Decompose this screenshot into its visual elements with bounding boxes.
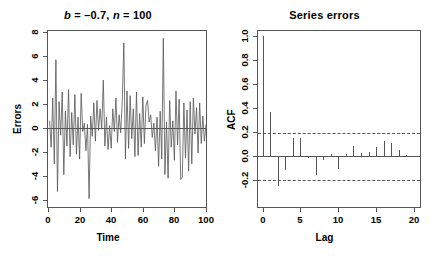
y-tick-label: -6 bbox=[29, 196, 40, 204]
acf-bar bbox=[263, 36, 264, 157]
y-tick-mark bbox=[253, 36, 257, 37]
acf-x-axis-label: Lag bbox=[216, 232, 433, 243]
y-tick-label: -2 bbox=[29, 148, 40, 156]
acf-bar bbox=[331, 154, 332, 156]
timeseries-title-var2: n bbox=[113, 9, 120, 21]
x-tick-label: 5 bbox=[297, 214, 302, 225]
y-tick-label: 0.2 bbox=[239, 125, 250, 138]
acf-bar bbox=[399, 150, 400, 156]
y-tick-mark bbox=[43, 32, 47, 33]
y-tick-mark bbox=[253, 60, 257, 61]
y-tick-mark bbox=[253, 84, 257, 85]
timeseries-y-axis-label: Errors bbox=[12, 104, 23, 134]
x-tick-mark bbox=[111, 208, 112, 212]
acf-bar bbox=[316, 156, 317, 175]
acf-bar bbox=[384, 141, 385, 157]
acf-bar bbox=[414, 156, 415, 157]
timeseries-title-var1: b bbox=[64, 9, 71, 21]
y-tick-label: 2 bbox=[29, 101, 40, 106]
timeseries-title-mid: = –0.7, bbox=[71, 9, 113, 21]
acf-bar bbox=[285, 156, 286, 170]
timeseries-panel: b = –0.7, n = 100 Errors Time 0204060801… bbox=[0, 0, 216, 256]
x-tick-label: 100 bbox=[198, 214, 214, 225]
y-tick-label: 4 bbox=[29, 77, 40, 82]
acf-bar bbox=[278, 156, 279, 186]
acf-bar bbox=[270, 112, 271, 157]
y-tick-mark bbox=[253, 180, 257, 181]
x-tick-mark bbox=[376, 208, 377, 212]
acf-bar bbox=[353, 146, 354, 157]
acf-bar bbox=[346, 154, 347, 156]
acf-lower-confidence-line bbox=[258, 180, 420, 181]
acf-title: Series errors bbox=[216, 9, 433, 21]
y-tick-label: 0.4 bbox=[239, 101, 250, 114]
acf-bar bbox=[308, 156, 309, 158]
y-tick-mark bbox=[253, 132, 257, 133]
x-tick-label: 40 bbox=[106, 214, 117, 225]
y-tick-mark bbox=[43, 200, 47, 201]
y-tick-mark bbox=[43, 104, 47, 105]
x-tick-label: 20 bbox=[75, 214, 86, 225]
timeseries-title: b = –0.7, n = 100 bbox=[0, 9, 216, 21]
x-tick-label: 60 bbox=[138, 214, 149, 225]
y-tick-mark bbox=[43, 56, 47, 57]
x-tick-mark bbox=[143, 208, 144, 212]
x-tick-mark bbox=[414, 208, 415, 212]
y-tick-label: 1.0 bbox=[239, 29, 250, 42]
y-tick-mark bbox=[253, 108, 257, 109]
y-tick-label: 6 bbox=[29, 53, 40, 58]
x-tick-mark bbox=[263, 208, 264, 212]
y-tick-mark bbox=[43, 128, 47, 129]
x-tick-mark bbox=[174, 208, 175, 212]
acf-zero-reference-line bbox=[258, 156, 420, 157]
acf-upper-confidence-line bbox=[258, 133, 420, 134]
x-tick-label: 20 bbox=[409, 214, 420, 225]
y-tick-mark bbox=[253, 156, 257, 157]
x-tick-mark bbox=[48, 208, 49, 212]
x-tick-label: 10 bbox=[333, 214, 344, 225]
y-tick-mark bbox=[43, 80, 47, 81]
acf-bar bbox=[300, 138, 301, 156]
x-tick-label: 0 bbox=[45, 214, 50, 225]
acf-bar bbox=[338, 156, 339, 169]
x-tick-label: 80 bbox=[169, 214, 180, 225]
acf-plot-area bbox=[258, 31, 420, 207]
acf-bar bbox=[361, 153, 362, 157]
y-tick-mark bbox=[43, 152, 47, 153]
timeseries-x-axis-label: Time bbox=[0, 232, 216, 243]
y-tick-label: 0.8 bbox=[239, 53, 250, 66]
y-tick-mark bbox=[43, 176, 47, 177]
acf-bar bbox=[376, 147, 377, 157]
x-tick-mark bbox=[80, 208, 81, 212]
timeseries-zero-reference-line bbox=[48, 128, 206, 129]
figure-canvas: b = –0.7, n = 100 Errors Time 0204060801… bbox=[0, 0, 433, 256]
x-tick-mark bbox=[206, 208, 207, 212]
timeseries-line-path bbox=[48, 31, 206, 207]
acf-panel: Series errors ACF Lag 05101520-0.20.00.2… bbox=[216, 0, 433, 256]
y-tick-label: 0.6 bbox=[239, 77, 250, 90]
acf-bar bbox=[293, 138, 294, 156]
y-tick-label: 8 bbox=[29, 29, 40, 34]
acf-y-axis-label: ACF bbox=[226, 109, 237, 130]
y-tick-label: -0.2 bbox=[239, 172, 250, 188]
x-tick-mark bbox=[300, 208, 301, 212]
acf-bar bbox=[323, 156, 324, 160]
y-tick-label: -4 bbox=[29, 172, 40, 180]
acf-bar bbox=[369, 152, 370, 157]
y-tick-label: 0 bbox=[29, 125, 40, 130]
x-tick-mark bbox=[338, 208, 339, 212]
x-tick-label: 0 bbox=[260, 214, 265, 225]
timeseries-plot-area bbox=[48, 31, 206, 207]
acf-bar bbox=[406, 155, 407, 156]
y-tick-label: 0.0 bbox=[239, 149, 250, 162]
acf-bar bbox=[391, 143, 392, 156]
x-tick-label: 15 bbox=[371, 214, 382, 225]
timeseries-title-suffix: = 100 bbox=[120, 9, 152, 21]
